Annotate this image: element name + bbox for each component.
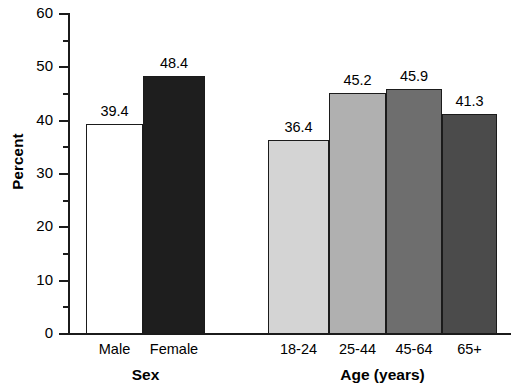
plot-area: 39.448.436.445.245.941.3 [0,0,522,334]
bar-sex-Male [86,124,143,334]
category-label-Male: Male [86,341,143,357]
bar-value-label: 48.4 [143,56,205,71]
group-label-age: Age (years) [268,366,497,383]
group-label-sex: Sex [86,366,205,383]
bar-value-label: 41.3 [442,94,497,109]
bar-sex-Female [143,76,205,334]
bar-value-label: 45.9 [386,69,442,84]
category-label-65plus: 65+ [442,341,497,357]
bar-age-18-24 [268,140,329,334]
category-label-25-44: 25-44 [329,341,386,357]
bar-value-label: 36.4 [268,120,329,135]
bar-age-65plus [442,114,497,334]
bar-chart: Percent 6050403020100 39.448.436.445.245… [0,0,522,391]
category-label-45-64: 45-64 [386,341,442,357]
bar-value-label: 39.4 [86,104,143,119]
bar-value-label: 45.2 [329,73,386,88]
bar-age-45-64 [386,89,442,334]
category-label-18-24: 18-24 [268,341,329,357]
bar-age-25-44 [329,93,386,334]
category-label-Female: Female [143,341,205,357]
